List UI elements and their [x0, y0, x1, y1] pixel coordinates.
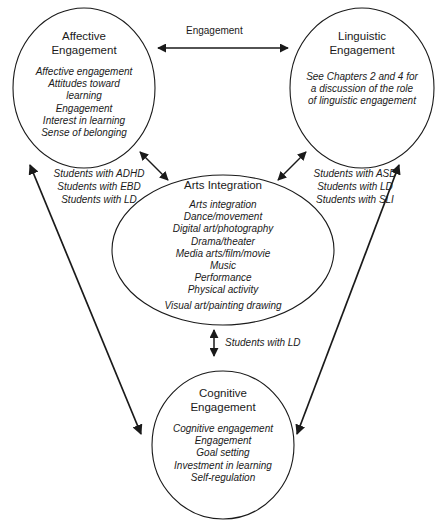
node-title-arts-integration: Arts Integration	[140, 178, 306, 192]
node-item: Physical activity	[128, 284, 318, 296]
side-label-line: Students with LD	[296, 180, 414, 193]
node-item: Dance/movement	[128, 211, 318, 223]
node-extra-items-arts-integration: Visual art/painting drawing	[128, 300, 318, 312]
node-items-linguistic: See Chapters 2 and 4 for a discussion of…	[292, 71, 432, 108]
node-item: Visual art/painting drawing	[128, 300, 318, 312]
node-item: Interest in learning	[8, 115, 160, 127]
node-title-affective: Affective Engagement	[13, 29, 155, 57]
side-label-line: Students with ADHD	[40, 167, 158, 180]
node-title-linguistic: Linguistic Engagement	[291, 29, 433, 57]
node-item: Sense of belonging	[8, 127, 160, 139]
concept-map-diagram: Affective Engagement Affective engagemen…	[0, 0, 446, 531]
node-items-cognitive: Cognitive engagement Engagement Goal set…	[142, 423, 304, 484]
node-item: Engagement	[8, 103, 160, 115]
node-item: Performance	[128, 272, 318, 284]
node-items-arts-integration: Arts integration Dance/movement Digital …	[128, 199, 318, 297]
node-item: Drama/theater	[128, 236, 318, 248]
side-label-line: Students with LD	[40, 193, 158, 206]
node-item: Media arts/film/movie	[128, 248, 318, 260]
node-item: a discussion of the role	[292, 83, 432, 95]
side-label-right-students: Students with ASD Students with LD Stude…	[296, 167, 414, 206]
node-item: Engagement	[142, 435, 304, 447]
node-title-cognitive: Cognitive Engagement	[152, 386, 294, 414]
node-item: Self-regulation	[142, 472, 304, 484]
node-item: Music	[128, 260, 318, 272]
edge-label-arts-cognitive: Students with LD	[225, 337, 301, 348]
side-label-line: Students with EBD	[40, 180, 158, 193]
edge-label-engagement: Engagement	[186, 25, 243, 36]
node-item: See Chapters 2 and 4 for	[292, 71, 432, 83]
node-item: Cognitive engagement	[142, 423, 304, 435]
node-item: Affective engagement	[8, 66, 160, 78]
node-item: of linguistic engagement	[292, 95, 432, 107]
side-label-line: Students with ASD	[296, 167, 414, 180]
node-item: learning	[8, 90, 160, 102]
node-item: Investment in learning	[142, 460, 304, 472]
node-items-affective: Affective engagement Attitudes toward le…	[8, 66, 160, 139]
node-item: Attitudes toward	[8, 78, 160, 90]
node-item: Goal setting	[142, 447, 304, 459]
node-item: Digital art/photography	[128, 223, 318, 235]
side-label-left-students: Students with ADHD Students with EBD Stu…	[40, 167, 158, 206]
side-label-line: Students with SLI	[296, 193, 414, 206]
